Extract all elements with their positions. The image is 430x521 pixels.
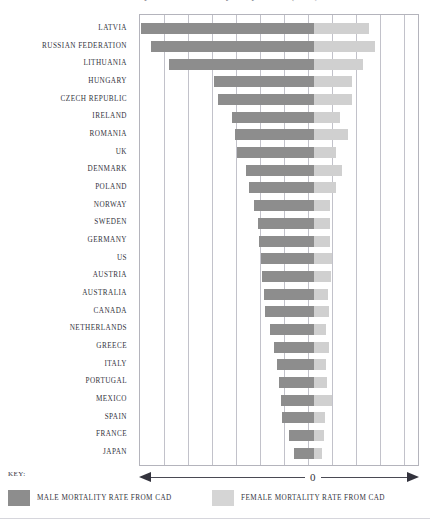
- bar-male: [281, 395, 314, 406]
- category-label: SPAIN: [0, 413, 133, 421]
- gridline: [380, 15, 381, 465]
- category-label: IRELAND: [0, 112, 133, 120]
- category-label: MEXICO: [0, 395, 133, 403]
- bar-female: [314, 182, 336, 193]
- bar-male: [246, 165, 314, 176]
- bar-female: [314, 412, 325, 423]
- category-label: JAPAN: [0, 448, 133, 456]
- legend-swatch-female-icon: [212, 490, 234, 506]
- bottom-divider: [0, 518, 430, 519]
- bar-male: [258, 218, 314, 229]
- category-label: SWEDEN: [0, 218, 133, 226]
- category-label: CZECH REPUBLIC: [0, 95, 133, 103]
- category-label: ROMANIA: [0, 130, 133, 138]
- bar-male: [249, 182, 314, 193]
- bar-male: [279, 377, 314, 388]
- category-label: CANADA: [0, 307, 133, 315]
- bar-male: [141, 23, 314, 34]
- category-label: ITALY: [0, 360, 133, 368]
- bar-female: [314, 59, 363, 70]
- bar-male: [270, 324, 314, 335]
- axis-line: [149, 477, 409, 478]
- category-label: FRANCE: [0, 430, 133, 438]
- chart-legend: MALE MORTALITY RATE FROM CAD FEMALE MORT…: [0, 490, 430, 514]
- bar-female: [314, 200, 330, 211]
- category-label: UK: [0, 148, 133, 156]
- category-label: GREECE: [0, 342, 133, 350]
- bar-female: [314, 306, 329, 317]
- legend-label-female: FEMALE MORTALITY RATE FROM CAD: [241, 494, 385, 502]
- page-title: Mortality rates from coronary artery dis…: [0, 0, 430, 1]
- axis-arrow-left-icon: [139, 472, 151, 482]
- bar-female: [314, 23, 369, 34]
- category-label: HUNGARY: [0, 77, 133, 85]
- category-label: LITHUANIA: [0, 59, 133, 67]
- bar-female: [314, 395, 332, 406]
- legend-item-female: FEMALE MORTALITY RATE FROM CAD: [212, 490, 385, 506]
- bar-female: [314, 112, 340, 123]
- gridline: [188, 15, 189, 465]
- bar-female: [314, 377, 327, 388]
- chart-title-strip: Mortality rates from coronary artery dis…: [0, 0, 430, 11]
- category-label: PORTUGAL: [0, 377, 133, 385]
- axis-zero-label: 0: [305, 469, 321, 485]
- category-label: NETHERLANDS: [0, 324, 133, 332]
- bar-male: [169, 59, 314, 70]
- bar-female: [314, 129, 348, 140]
- value-axis: 0: [139, 470, 419, 486]
- bar-male: [218, 94, 314, 105]
- bar-female: [314, 271, 331, 282]
- bar-male: [277, 359, 314, 370]
- bar-male: [254, 200, 314, 211]
- category-label: GERMANY: [0, 236, 133, 244]
- bar-male: [294, 448, 314, 459]
- bar-female: [314, 324, 326, 335]
- axis-arrow-right-icon: [407, 472, 419, 482]
- category-label: POLAND: [0, 183, 133, 191]
- bar-female: [314, 359, 326, 370]
- diverging-bar-chart: LATVIARUSSIAN FEDERATIONLITHUANIAHUNGARY…: [0, 11, 430, 469]
- bar-female: [314, 76, 352, 87]
- bar-female: [314, 41, 375, 52]
- plot-area: [139, 14, 419, 466]
- bar-male: [214, 76, 314, 87]
- bar-female: [314, 165, 342, 176]
- bar-female: [314, 94, 352, 105]
- chart-page: Mortality rates from coronary artery dis…: [0, 0, 430, 521]
- legend-label-male: MALE MORTALITY RATE FROM CAD: [37, 494, 172, 502]
- category-label: US: [0, 254, 133, 262]
- bar-female: [314, 289, 328, 300]
- category-axis-labels: LATVIARUSSIAN FEDERATIONLITHUANIAHUNGARY…: [0, 11, 133, 469]
- bar-female: [314, 342, 329, 353]
- bar-male: [282, 412, 314, 423]
- category-label: AUSTRIA: [0, 271, 133, 279]
- bar-male: [261, 253, 314, 264]
- gridline: [164, 15, 165, 465]
- bar-female: [314, 430, 324, 441]
- category-label: DENMARK: [0, 165, 133, 173]
- category-label: RUSSIAN FEDERATION: [0, 42, 133, 50]
- category-label: AUSTRALIA: [0, 289, 133, 297]
- category-label: NORWAY: [0, 201, 133, 209]
- gridline: [404, 15, 405, 465]
- bar-male: [237, 147, 314, 158]
- legend-swatch-male-icon: [8, 490, 30, 506]
- legend-item-male: MALE MORTALITY RATE FROM CAD: [8, 490, 172, 506]
- bar-female: [314, 147, 336, 158]
- bar-male: [232, 112, 314, 123]
- bar-female: [314, 218, 330, 229]
- bar-female: [314, 448, 322, 459]
- bar-male: [262, 271, 314, 282]
- bar-male: [264, 289, 314, 300]
- gridline: [356, 15, 357, 465]
- bar-male: [151, 41, 314, 52]
- category-label: LATVIA: [0, 24, 133, 32]
- bar-female: [314, 236, 330, 247]
- bar-male: [235, 129, 314, 140]
- bar-female: [314, 253, 332, 264]
- key-label: KEY:: [8, 470, 26, 478]
- bar-male: [259, 236, 314, 247]
- bar-male: [274, 342, 314, 353]
- bar-male: [289, 430, 314, 441]
- bar-male: [265, 306, 314, 317]
